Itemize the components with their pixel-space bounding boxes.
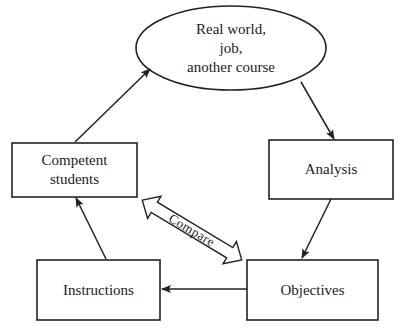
real-world-line1: Real world, bbox=[196, 20, 266, 39]
arrow-analysis-to-objectives bbox=[302, 199, 331, 258]
competent-line2: students bbox=[50, 170, 99, 189]
arrow-instructions-to-competent bbox=[76, 198, 106, 259]
real-world-line3: another course bbox=[187, 58, 275, 77]
compare-double-arrow: Compare bbox=[136, 189, 249, 271]
competent-line1: Competent bbox=[42, 151, 108, 170]
real-world-label: Real world, job, another course bbox=[136, 8, 326, 88]
competent-students-label: Competent students bbox=[12, 143, 137, 197]
instructions-label: Instructions bbox=[37, 260, 160, 320]
objectives-label: Objectives bbox=[247, 260, 378, 320]
real-world-line2: job, bbox=[220, 39, 243, 58]
arrow-realworld-to-analysis bbox=[301, 82, 334, 139]
compare-label: Compare bbox=[166, 210, 218, 249]
analysis-label: Analysis bbox=[269, 140, 393, 199]
